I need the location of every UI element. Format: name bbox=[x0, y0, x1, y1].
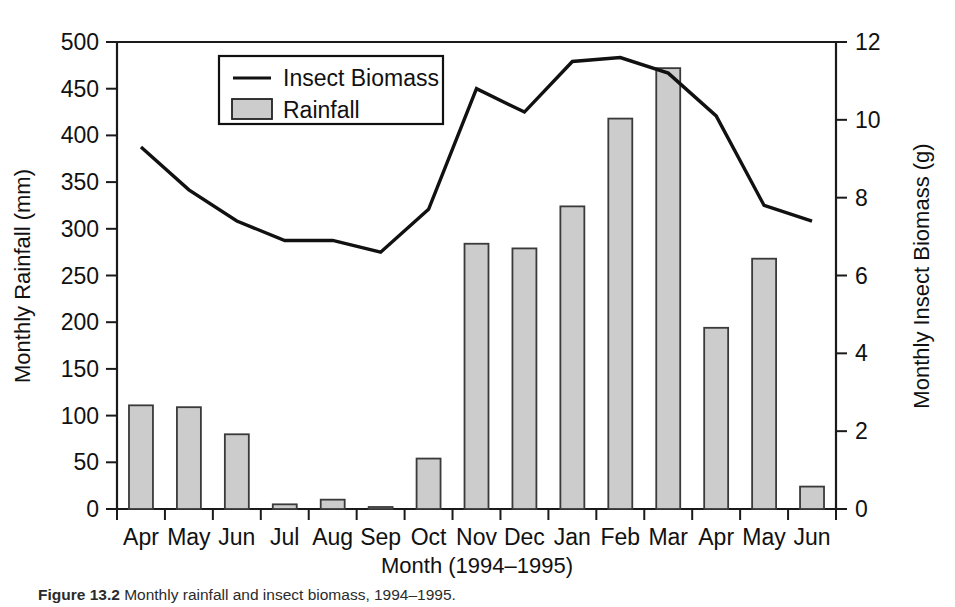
left-tick-label: 150 bbox=[61, 356, 99, 382]
left-tick-label: 50 bbox=[73, 449, 99, 475]
x-tick-label-feb-10: Feb bbox=[600, 524, 640, 550]
left-tick-label: 100 bbox=[61, 403, 99, 429]
left-tick-label: 0 bbox=[86, 496, 99, 522]
left-tick-label: 500 bbox=[61, 29, 99, 55]
left-tick-label: 200 bbox=[61, 309, 99, 335]
x-tick-label-aug-4: Aug bbox=[312, 524, 353, 550]
y2-axis-title: Monthly Insect Biomass (g) bbox=[909, 143, 934, 408]
right-axis: 024681012 bbox=[836, 29, 881, 522]
chart-legend[interactable]: Insect Biomass Rainfall bbox=[219, 56, 443, 124]
x-tick-label-mar-11: Mar bbox=[648, 524, 688, 550]
rainfall-bar-series bbox=[129, 68, 824, 509]
x-tick-label-jun-14: Jun bbox=[793, 524, 830, 550]
left-tick-label: 250 bbox=[61, 263, 99, 289]
x-tick-label-may-1: May bbox=[167, 524, 211, 550]
right-tick-label: 0 bbox=[855, 496, 868, 522]
rainfall-bar-jan-9 bbox=[560, 206, 584, 509]
left-tick-label: 400 bbox=[61, 122, 99, 148]
x-tick-label-may-13: May bbox=[742, 524, 786, 550]
rainfall-bar-apr-12 bbox=[704, 328, 728, 509]
right-tick-label: 10 bbox=[855, 107, 881, 133]
x-tick-label-jul-3: Jul bbox=[270, 524, 299, 550]
rainfall-bar-dec-8 bbox=[512, 248, 536, 509]
rainfall-bar-nov-7 bbox=[465, 244, 489, 509]
figure-caption-text: Monthly rainfall and insect biomass, 199… bbox=[124, 586, 456, 603]
x-tick-label-nov-7: Nov bbox=[456, 524, 497, 550]
left-axis: 050100150200250300350400450500 bbox=[61, 29, 117, 522]
x-axis: AprMayJunJulAugSepOctNovDecJanFebMarAprM… bbox=[117, 509, 836, 550]
left-tick-label: 350 bbox=[61, 169, 99, 195]
rainfall-bar-mar-11 bbox=[656, 68, 680, 509]
rainfall-bar-feb-10 bbox=[608, 119, 632, 509]
figure-caption-label: Figure 13.2 bbox=[38, 586, 120, 603]
rainfall-biomass-chart: 050100150200250300350400450500 024681012… bbox=[0, 0, 955, 580]
x-tick-label-oct-6: Oct bbox=[411, 524, 447, 550]
rainfall-bar-may-13 bbox=[752, 259, 776, 509]
rainfall-bar-jun-14 bbox=[800, 487, 824, 509]
x-axis-title: Month (1994–1995) bbox=[381, 553, 573, 578]
figure-container: 050100150200250300350400450500 024681012… bbox=[0, 0, 955, 607]
legend-label-rainfall: Rainfall bbox=[283, 97, 360, 123]
right-tick-label: 4 bbox=[855, 340, 868, 366]
x-tick-label-jun-2: Jun bbox=[218, 524, 255, 550]
right-tick-label: 8 bbox=[855, 185, 868, 211]
right-tick-label: 12 bbox=[855, 29, 881, 55]
figure-caption: Figure 13.2 Monthly rainfall and insect … bbox=[38, 586, 938, 604]
rainfall-bar-apr-0 bbox=[129, 405, 153, 509]
left-tick-label: 300 bbox=[61, 216, 99, 242]
x-tick-label-sep-5: Sep bbox=[360, 524, 401, 550]
y-axis-title: Monthly Rainfall (mm) bbox=[10, 169, 35, 383]
x-tick-label-jan-9: Jan bbox=[554, 524, 591, 550]
legend-label-insect-biomass: Insect Biomass bbox=[283, 65, 439, 91]
rainfall-bar-jun-2 bbox=[225, 434, 249, 509]
rainfall-bar-may-1 bbox=[177, 407, 201, 509]
x-tick-label-apr-0: Apr bbox=[123, 524, 159, 550]
right-tick-label: 2 bbox=[855, 418, 868, 444]
rainfall-bar-aug-4 bbox=[321, 500, 345, 509]
rainfall-bar-jul-3 bbox=[273, 504, 297, 509]
x-tick-label-dec-8: Dec bbox=[504, 524, 545, 550]
legend-bar-marker bbox=[232, 99, 272, 119]
right-tick-label: 6 bbox=[855, 263, 868, 289]
rainfall-bar-sep-5 bbox=[369, 507, 393, 509]
left-tick-label: 450 bbox=[61, 76, 99, 102]
x-tick-label-apr-12: Apr bbox=[698, 524, 734, 550]
rainfall-bar-oct-6 bbox=[417, 459, 441, 509]
